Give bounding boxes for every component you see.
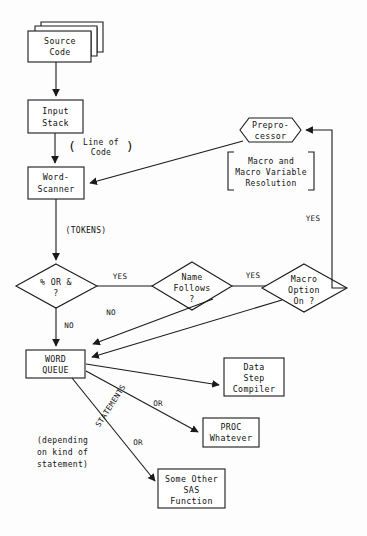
preprocessor-label-line2: cessor <box>255 131 287 141</box>
word-queue-label-line2: QUEUE <box>42 365 68 375</box>
node-source-code: Source Code <box>28 22 103 62</box>
word-scanner-label-line2: Scanner <box>37 184 74 194</box>
edge-label-statements: STATEMENTS <box>94 383 128 429</box>
node-word-scanner: Word- Scanner <box>28 167 84 199</box>
edge-preprocessor-to-scanner <box>90 141 243 183</box>
decision-name-follows-label-line1: Name <box>181 272 202 282</box>
edge-label-no-percent: NO <box>64 321 74 330</box>
input-stack-label-line1: Input <box>42 106 68 116</box>
decision-percent-label-line1: % OR & <box>40 277 72 287</box>
edge-label-yes-macro-option: YES <box>306 214 321 223</box>
data-step-compiler-label-line2: Step <box>243 373 264 383</box>
node-data-step-compiler: Data Step Compiler <box>224 358 284 396</box>
edge-label-yes-name-follows: YES <box>246 271 261 280</box>
depending-note-line3: statement) <box>37 460 88 469</box>
data-step-compiler-label-line1: Data <box>243 362 264 372</box>
line-of-code-text-line2: Code <box>91 148 111 157</box>
decision-percent-label-line2: ? <box>53 288 58 298</box>
preprocessor-note-line2: Macro Variable <box>235 168 307 177</box>
preprocessor-note-line1: Macro and <box>248 157 294 166</box>
edge-label-yes-percent: YES <box>113 272 128 281</box>
node-decision-percent-or-amp: % OR & ? <box>16 264 97 308</box>
edge-label-no-name-follows: NO <box>106 308 116 317</box>
line-of-code-paren-close: ) <box>126 139 134 154</box>
edge-macro-option-yes-to-preprocessor <box>306 130 347 288</box>
depending-note-line1: (depending <box>37 436 88 445</box>
decision-macro-option-label-line2: Option <box>288 285 320 295</box>
edge-name-follows-no-to-word-queue <box>93 299 213 344</box>
word-scanner-label-line1: Word- <box>43 172 69 182</box>
node-input-stack: Input Stack <box>28 100 83 133</box>
data-step-compiler-label-line3: Compiler <box>233 384 275 394</box>
decision-name-follows-label-line2: Follows <box>173 283 210 293</box>
preprocessor-label-line1: Prepro- <box>252 120 289 130</box>
some-other-sas-function-label-line2: SAS <box>184 485 200 495</box>
proc-whatever-label-line2: Whatever <box>210 433 252 443</box>
annotation-bracket-left <box>228 152 234 190</box>
node-decision-name-follows: Name Follows ? <box>152 262 232 310</box>
word-queue-label-line1: WORD <box>45 354 66 364</box>
input-stack-label-line2: Stack <box>42 118 68 128</box>
some-other-sas-function-label-line3: Function <box>170 496 212 506</box>
edge-label-line-of-code: ( Line of Code ) <box>68 138 134 157</box>
preprocessor-annotation: Macro and Macro Variable Resolution <box>228 152 314 190</box>
preprocessor-note-line3: Resolution <box>245 179 296 188</box>
decision-macro-option-label-line1: Macro <box>291 274 317 284</box>
annotation-depending-on-statement: (depending on kind of statement) <box>37 436 88 469</box>
edge-label-or-2: OR <box>133 438 143 447</box>
node-preprocessor: Prepro- cessor <box>240 118 301 142</box>
flowchart-diagram: Source Code Input Stack ( Line of Code )… <box>0 0 367 536</box>
line-of-code-text-line1: Line of <box>83 138 119 147</box>
proc-whatever-label-line1: PROC <box>220 422 241 432</box>
decision-macro-option-label-line3: On ? <box>293 296 314 306</box>
source-code-label-line2: Code <box>49 47 70 57</box>
node-proc-whatever: PROC Whatever <box>203 418 259 447</box>
source-code-label-line1: Source <box>44 36 76 46</box>
edge-label-tokens: (TOKENS) <box>66 226 107 235</box>
some-other-sas-function-label-line1: Some Other <box>165 474 218 484</box>
flowchart-canvas: Source Code Input Stack ( Line of Code )… <box>0 0 367 536</box>
decision-name-follows-label-line3: ? <box>189 294 194 304</box>
annotation-bracket-right <box>308 152 314 190</box>
edge-label-or-1: OR <box>153 399 163 408</box>
depending-note-line2: on kind of <box>37 448 88 457</box>
line-of-code-paren-open: ( <box>68 139 76 154</box>
node-word-queue: WORD QUEUE <box>26 350 85 378</box>
node-some-other-sas-function: Some Other SAS Function <box>158 469 225 508</box>
